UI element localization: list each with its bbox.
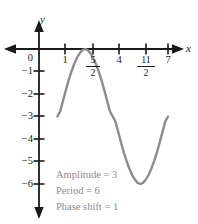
y-tick-label-minus-3: −3 [14,111,33,122]
x-tick-label-1: 1 [60,55,70,66]
y-axis-bottom-arrowhead [34,207,43,219]
y-tick-label-minus-4: −4 [14,134,33,145]
graph-annotations: Amplitude = 3 Period = 6 Phase shift = 1 [56,167,118,215]
x-tick-label-11-over-2: 11 2 [137,55,155,78]
x-axis-right-arrowhead [172,44,184,54]
x-tick-label-7: 7 [163,55,173,66]
trig-graph-figure: y x 1 5 2 4 11 2 7 0 −1 −2 −3 −4 −5 −6 A… [0,0,198,224]
x-tick-11-over-2-denominator: 2 [143,68,150,79]
y-tick-label-minus-5: −5 [14,156,33,167]
x-tick-11-over-2-numerator: 11 [140,55,152,66]
y-tick-label-0: 0 [20,53,33,64]
x-axis-label: x [186,43,191,54]
x-tick-5-over-2-denominator: 2 [90,68,97,79]
y-tick-label-minus-6: −6 [14,179,33,190]
annotation-phase-shift: Phase shift = 1 [56,199,118,215]
x-tick-label-5-over-2: 5 2 [86,55,100,78]
annotation-amplitude: Amplitude = 3 [56,167,118,183]
y-tick-label-minus-1: −1 [14,66,33,77]
y-axis-label: y [40,14,45,25]
y-tick-label-minus-2: −2 [14,89,33,100]
annotation-period: Period = 6 [56,183,118,199]
x-tick-label-4: 4 [114,55,124,66]
x-axis-left-arrowhead [4,44,16,54]
x-tick-5-over-2-numerator: 5 [90,55,97,66]
